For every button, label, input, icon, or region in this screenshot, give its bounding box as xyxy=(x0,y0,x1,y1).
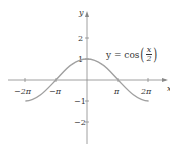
y-axis-arrow-icon xyxy=(85,11,89,17)
fraction: x 2 xyxy=(146,46,152,63)
y-tick-label: −2 xyxy=(74,118,86,127)
x-axis-label: x xyxy=(167,84,170,93)
fraction-numerator: x xyxy=(147,46,152,54)
left-paren-icon: ( xyxy=(141,46,145,63)
fraction-denominator: 2 xyxy=(147,55,152,63)
y-tick-label: 2 xyxy=(78,34,83,43)
cosine-chart: −2π −π π 2π 2 1 −1 −2 y x xyxy=(0,0,170,149)
x-tick-label: π xyxy=(113,87,120,96)
equation-label: y = cos ( x 2 ) xyxy=(106,46,159,63)
equation-lhs: y = cos xyxy=(106,50,139,60)
x-tick-label: −2π xyxy=(14,87,32,96)
right-paren-icon: ) xyxy=(153,46,157,63)
x-axis-arrow-icon xyxy=(162,78,168,82)
y-tick-label: −1 xyxy=(74,97,86,106)
x-tick-label: −π xyxy=(49,87,62,96)
x-tick-label: 2π xyxy=(140,87,152,96)
y-axis-label: y xyxy=(78,8,84,17)
